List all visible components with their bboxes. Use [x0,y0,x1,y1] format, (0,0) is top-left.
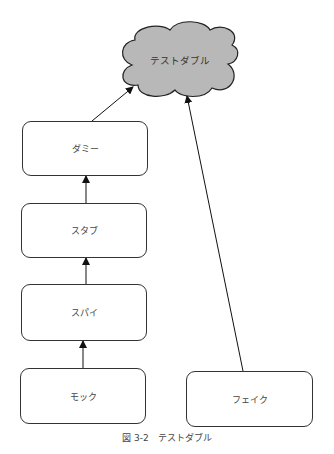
node-spy: スパイ [21,284,147,341]
edge-dummy-root [92,87,133,121]
edge-fake-root [187,96,243,371]
node-mock-label: モック [70,390,97,403]
node-dummy-label: ダミー [72,142,99,155]
node-fake: フェイク [186,371,313,427]
node-spy-label: スパイ [71,306,98,319]
node-fake-label: フェイク [232,393,268,406]
figure-caption: 図 3-2 テストダブル [0,431,334,444]
node-stub-label: スタブ [71,224,98,237]
node-stub: スタブ [21,203,147,258]
root-label: テストダブル [140,53,220,67]
node-dummy: ダミー [22,121,148,176]
node-mock: モック [20,368,146,424]
